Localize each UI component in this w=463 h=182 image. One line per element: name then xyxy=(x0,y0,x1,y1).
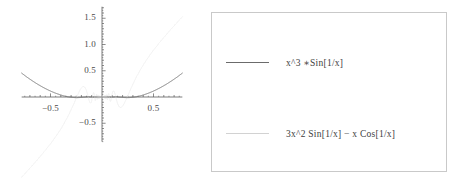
legend-label-2: 3x^2 Sin[1/x] − x Cos[1/x] xyxy=(286,127,395,141)
plot-canvas xyxy=(0,0,200,182)
y-tick-label: 0.5 xyxy=(66,66,96,75)
y-tick-label: 1.0 xyxy=(66,40,96,49)
legend-line-swatch-1 xyxy=(226,62,269,63)
x-tick-label: −0.5 xyxy=(36,104,66,113)
legend-entry-1: x^3 ∗Sin[1/x] xyxy=(212,56,446,70)
legend-box: x^3 ∗Sin[1/x] 3x^2 Sin[1/x] − x Cos[1/x] xyxy=(211,12,447,172)
legend-entry-2: 3x^2 Sin[1/x] − x Cos[1/x] xyxy=(212,127,446,141)
y-tick-label: −0.5 xyxy=(66,118,96,127)
legend-line-swatch-2 xyxy=(226,133,269,134)
y-tick-label: 1.5 xyxy=(66,13,96,22)
figure-root: −0.50.51.01.5 −0.50.5 x^3 ∗Sin[1/x] 3x^2… xyxy=(0,0,463,182)
legend-label-1: x^3 ∗Sin[1/x] xyxy=(286,56,343,70)
plot-panel: −0.50.51.01.5 −0.50.5 xyxy=(0,0,200,182)
plot-axes xyxy=(22,7,183,142)
x-tick-label: 0.5 xyxy=(139,104,169,113)
